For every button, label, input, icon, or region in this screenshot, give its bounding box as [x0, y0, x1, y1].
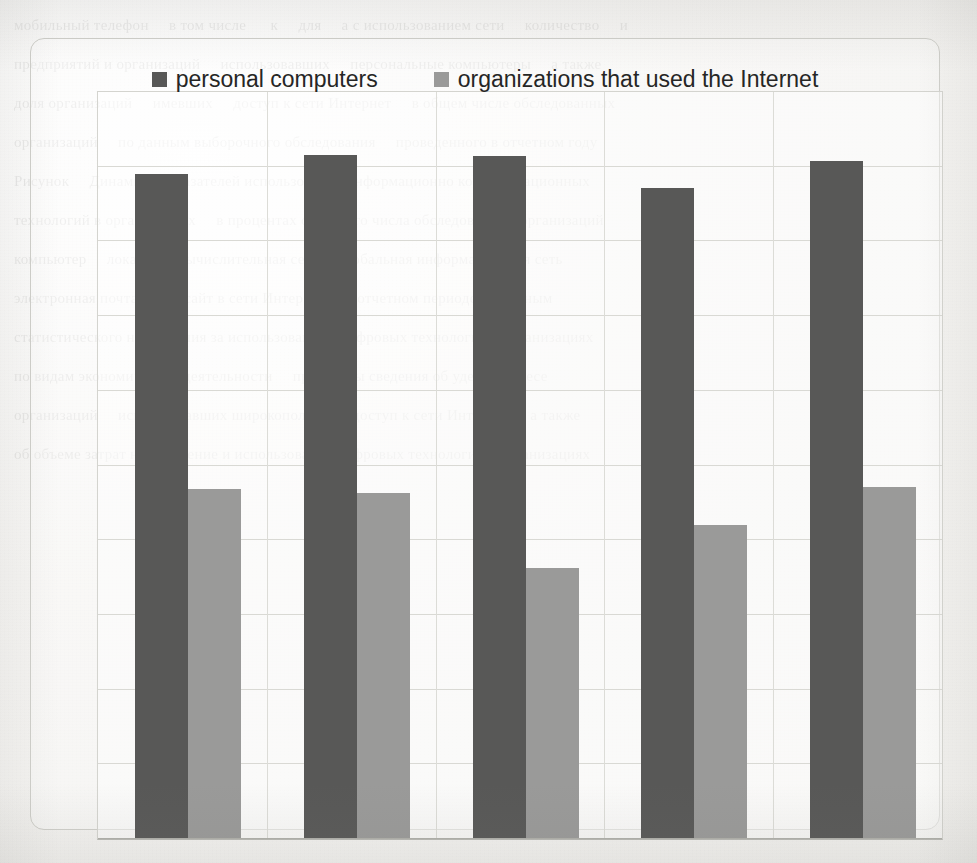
legend-label-personal-computers: personal computers — [176, 68, 378, 91]
bar-series-1-category-1[interactable] — [357, 493, 410, 839]
bar-series-0-category-4[interactable] — [810, 161, 863, 839]
gridline-vertical — [604, 92, 605, 839]
bar-series-1-category-0[interactable] — [188, 489, 241, 839]
scanned-page: мобильный телефон в том числе к для а с … — [0, 0, 977, 863]
bar-series-0-category-1[interactable] — [304, 155, 357, 839]
bar-series-1-category-3[interactable] — [694, 525, 747, 839]
bar-series-1-category-4[interactable] — [863, 487, 916, 839]
legend-swatch-organizations-internet — [434, 72, 449, 87]
chart-plot-area — [97, 91, 943, 840]
legend-swatch-personal-computers — [152, 72, 167, 87]
bar-series-0-category-2[interactable] — [473, 156, 526, 839]
x-axis-baseline — [98, 838, 942, 839]
legend-item-personal-computers[interactable]: personal computers — [152, 68, 378, 91]
bar-series-0-category-3[interactable] — [641, 188, 694, 839]
gridline-vertical — [773, 92, 774, 839]
gridline-vertical — [436, 92, 437, 839]
bar-series-0-category-0[interactable] — [135, 174, 188, 839]
legend-item-organizations-internet[interactable]: organizations that used the Internet — [434, 68, 819, 91]
chart-frame: personal computers organizations that us… — [30, 38, 940, 830]
legend-label-organizations-internet: organizations that used the Internet — [458, 68, 819, 91]
bar-series-1-category-2[interactable] — [526, 568, 579, 839]
gridline-vertical — [267, 92, 268, 839]
chart-legend: personal computers organizations that us… — [31, 68, 939, 91]
